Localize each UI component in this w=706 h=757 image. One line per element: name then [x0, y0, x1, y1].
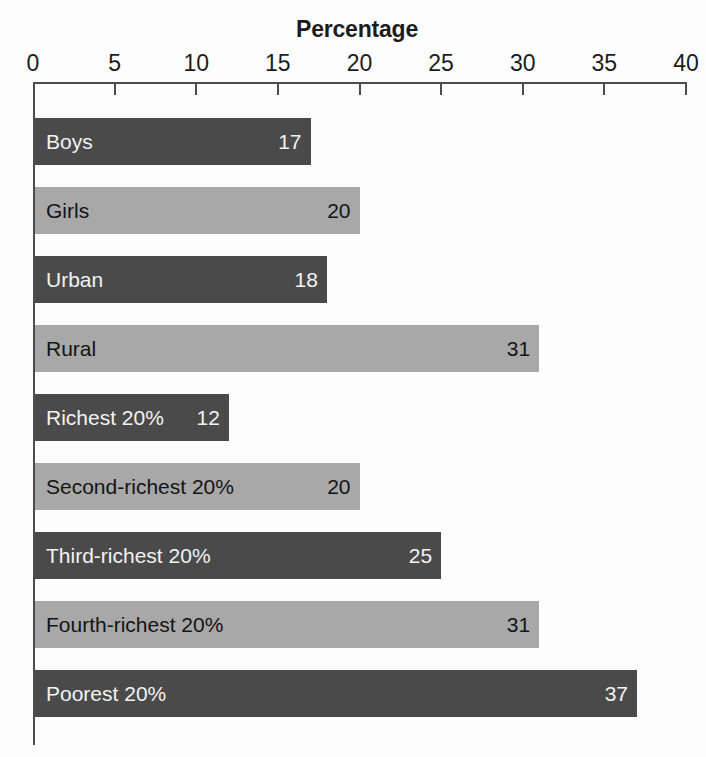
bar-second-richest-20[interactable]: Second-richest 20%20 [35, 463, 360, 510]
bar-label: Poorest 20% [46, 683, 166, 704]
bar-label: Richest 20% [46, 407, 164, 428]
bar-label: Girls [46, 200, 89, 221]
bar-value: 31 [507, 338, 530, 359]
bar-girls[interactable]: Girls20 [35, 187, 360, 234]
bar-value: 37 [605, 683, 628, 704]
bar-fourth-richest-20[interactable]: Fourth-richest 20%31 [35, 601, 539, 648]
bar-value: 17 [278, 131, 301, 152]
bar-value: 31 [507, 614, 530, 635]
bar-value: 20 [327, 200, 350, 221]
bar-urban[interactable]: Urban18 [35, 256, 327, 303]
bar-series: Boys17Girls20Urban18Rural31Richest 20%12… [0, 0, 706, 757]
bar-label: Third-richest 20% [46, 545, 211, 566]
bar-label: Urban [46, 269, 103, 290]
bar-label: Boys [46, 131, 93, 152]
bar-value: 18 [294, 269, 317, 290]
bar-rural[interactable]: Rural31 [35, 325, 539, 372]
bar-value: 12 [197, 407, 220, 428]
bar-label: Rural [46, 338, 96, 359]
bar-richest-20[interactable]: Richest 20%12 [35, 394, 229, 441]
bar-boys[interactable]: Boys17 [35, 118, 311, 165]
bar-chart: Percentage 0510152025303540 Boys17Girls2… [0, 0, 706, 757]
bar-poorest-20[interactable]: Poorest 20%37 [35, 670, 637, 717]
bar-value: 20 [327, 476, 350, 497]
bar-label: Fourth-richest 20% [46, 614, 223, 635]
bar-third-richest-20[interactable]: Third-richest 20%25 [35, 532, 441, 579]
bar-value: 25 [409, 545, 432, 566]
bar-label: Second-richest 20% [46, 476, 234, 497]
